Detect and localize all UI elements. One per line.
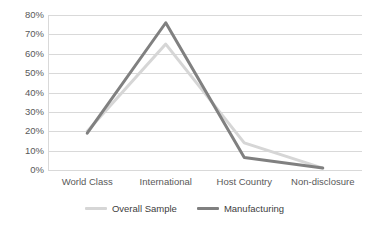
- legend-label: Manufacturing: [224, 203, 284, 214]
- line-chart: 0%10%20%30%40%50%60%70%80% World ClassIn…: [0, 0, 369, 231]
- x-axis-tick-label: International: [127, 176, 206, 187]
- y-axis-tick-label: 30%: [4, 107, 44, 117]
- y-axis-tick-label: 70%: [4, 30, 44, 40]
- legend-swatch-icon: [85, 207, 107, 210]
- series-line: [87, 44, 323, 168]
- y-axis-tick-label: 10%: [4, 146, 44, 156]
- y-axis-tick-label: 80%: [4, 10, 44, 20]
- y-axis-tick-label: 40%: [4, 88, 44, 98]
- y-axis-tick-label: 50%: [4, 68, 44, 78]
- x-axis-tick-label: Non-disclosure: [284, 176, 363, 187]
- series-layer: [48, 15, 362, 170]
- legend-item[interactable]: Manufacturing: [197, 203, 284, 214]
- legend-label: Overall Sample: [112, 203, 177, 214]
- legend-swatch-icon: [197, 207, 219, 210]
- y-axis-tick-label: 0%: [4, 165, 44, 175]
- y-axis-tick-label: 20%: [4, 127, 44, 137]
- gridline: [48, 170, 362, 171]
- y-axis-tick-label: 60%: [4, 49, 44, 59]
- x-axis-tick-labels: World ClassInternationalHost CountryNon-…: [48, 176, 362, 187]
- legend-item[interactable]: Overall Sample: [85, 203, 177, 214]
- chart-legend: Overall SampleManufacturing: [0, 203, 369, 214]
- plot-area: [48, 15, 362, 170]
- x-axis-tick-label: Host Country: [205, 176, 284, 187]
- x-axis-tick-label: World Class: [48, 176, 127, 187]
